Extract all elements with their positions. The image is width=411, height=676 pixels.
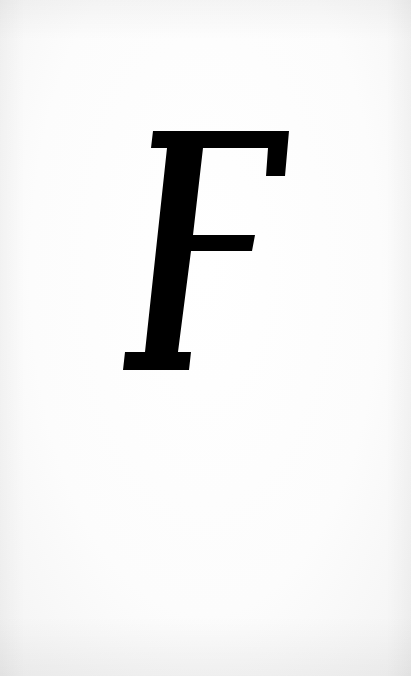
letter-text: F xyxy=(0,0,1,1)
paper-page: F xyxy=(0,0,411,676)
letter-f-shape xyxy=(123,131,289,370)
large-letter-f-glyph xyxy=(0,0,411,676)
